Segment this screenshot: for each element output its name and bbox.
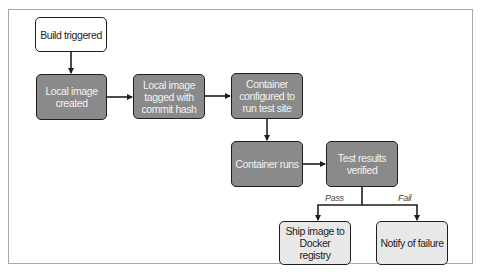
node-label: Ship image to Docker registry	[283, 225, 347, 261]
node-label: Local image tagged with commit hash	[137, 79, 201, 115]
node-local-image-tagged: Local image tagged with commit hash	[133, 74, 205, 119]
node-ship-image: Ship image to Docker registry	[279, 221, 351, 265]
edge-verified-to-ship	[318, 187, 362, 220]
node-notify-failure: Notify of failure	[376, 221, 448, 265]
node-label: Container configured to run test site	[235, 78, 299, 114]
node-test-results-verified: Test results verified	[326, 141, 398, 187]
node-label: Build triggered	[40, 29, 102, 41]
node-label: Local image created	[40, 85, 103, 109]
node-container-runs: Container runs	[231, 141, 303, 187]
node-build-triggered: Build triggered	[35, 17, 107, 52]
node-local-image-created: Local image created	[36, 74, 107, 120]
node-label: Test results verified	[330, 152, 394, 176]
pass-label: Pass	[325, 193, 344, 203]
node-container-configured: Container configured to run test site	[231, 73, 303, 119]
fail-label: Fail	[398, 193, 411, 203]
edge-verified-to-notify	[362, 205, 417, 220]
node-label: Container runs	[235, 158, 298, 170]
node-label: Notify of failure	[380, 237, 443, 249]
